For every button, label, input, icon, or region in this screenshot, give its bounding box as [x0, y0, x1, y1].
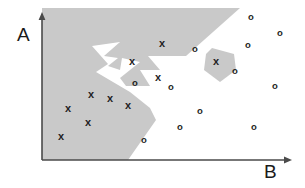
data-point-o: o	[245, 39, 251, 50]
data-point-x: x	[65, 102, 72, 114]
data-point-o: o	[168, 81, 174, 92]
data-point-x: x	[58, 130, 65, 142]
data-point-o: o	[277, 27, 283, 38]
y-axis-label: A	[17, 25, 30, 44]
data-point-x: x	[107, 92, 114, 104]
data-point-o: o	[232, 65, 238, 76]
data-point-o: o	[141, 134, 147, 145]
data-point-x: x	[125, 99, 132, 111]
data-point-o: o	[248, 11, 254, 22]
data-point-o: o	[272, 80, 278, 91]
x-axis-arrowhead	[284, 157, 292, 164]
data-point-x: x	[155, 71, 162, 83]
data-point-o: o	[132, 77, 138, 88]
data-point-o: o	[177, 121, 183, 132]
data-point-x: x	[213, 55, 220, 67]
plot-canvas: xxxxxxxxxxoooooooooooo	[0, 0, 305, 188]
data-point-o: o	[192, 43, 198, 54]
data-point-x: x	[88, 88, 95, 100]
data-point-x: x	[129, 55, 136, 67]
data-point-o: o	[197, 105, 203, 116]
data-point-o: o	[251, 121, 257, 132]
x-axis-label: B	[264, 162, 277, 181]
data-point-x: x	[159, 37, 166, 49]
data-point-x: x	[85, 116, 92, 128]
scatter-plot-figure: xxxxxxxxxxoooooooooooo A B	[0, 0, 305, 188]
